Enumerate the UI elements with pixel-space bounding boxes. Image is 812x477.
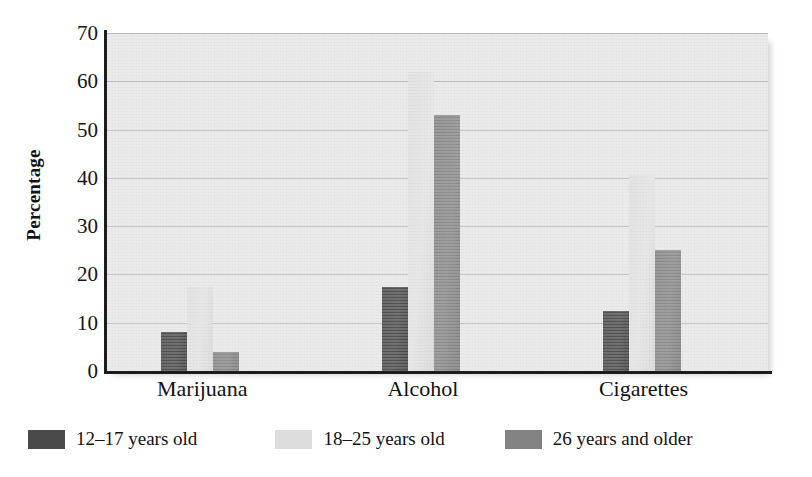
y-axis-tick-label: 50: [52, 117, 98, 142]
x-axis-category-labels: MarijuanaAlcoholCigarettes: [106, 376, 768, 410]
bar: [161, 332, 187, 371]
bar-chart-figure: Percentage 010203040506070 MarijuanaAlco…: [0, 0, 812, 477]
gridline: [106, 81, 768, 82]
y-axis-tick-label: 10: [52, 310, 98, 335]
legend-item-label: 26 years and older: [553, 428, 693, 450]
y-axis-tick-label: 0: [52, 359, 98, 384]
bar: [213, 352, 239, 371]
legend-item-label: 18–25 years old: [323, 428, 444, 450]
y-axis-line: [104, 30, 107, 374]
y-axis-tick-label: 30: [52, 214, 98, 239]
legend-item: 26 years and older: [505, 428, 693, 450]
plot-area: [106, 33, 768, 371]
legend-swatch-medium: [505, 430, 542, 449]
legend-swatch-dark: [28, 430, 65, 449]
y-axis-title-label: Percentage: [23, 149, 45, 240]
x-axis-category-label: Alcohol: [387, 376, 458, 402]
legend-item: 12–17 years old: [28, 428, 197, 450]
y-axis-tick-label: 20: [52, 262, 98, 287]
x-axis-category-label: Cigarettes: [599, 376, 688, 402]
bar: [408, 72, 434, 371]
y-axis-tick-labels: 010203040506070: [48, 33, 98, 371]
legend-swatch-light: [275, 430, 312, 449]
bar: [603, 311, 629, 371]
bar: [434, 115, 460, 371]
plot-wrapper: [106, 33, 768, 371]
bar: [187, 287, 213, 372]
y-axis-tick-label: 40: [52, 165, 98, 190]
chart-legend: 12–17 years old18–25 years old26 years a…: [28, 424, 693, 454]
legend-item-label: 12–17 years old: [76, 428, 197, 450]
bar: [655, 250, 681, 371]
legend-item: 18–25 years old: [275, 428, 444, 450]
gridline: [106, 33, 768, 34]
bar: [382, 287, 408, 372]
bar: [629, 175, 655, 371]
x-axis-line: [104, 371, 772, 374]
y-axis-tick-label: 70: [52, 21, 98, 46]
y-axis-tick-label: 60: [52, 69, 98, 94]
x-axis-category-label: Marijuana: [157, 376, 247, 402]
